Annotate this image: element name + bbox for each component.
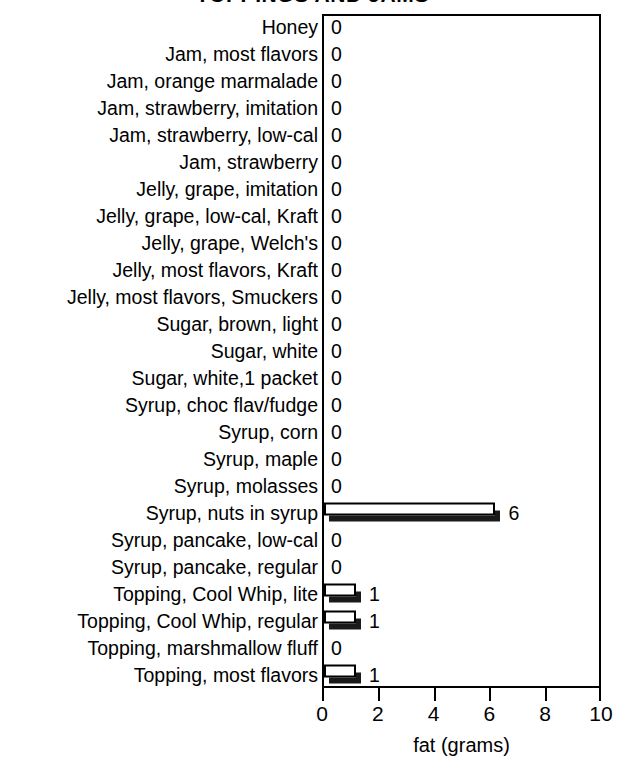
bar-value-label: 6: [508, 503, 519, 523]
bar-value-label: 0: [331, 449, 342, 469]
category-label: Jelly, grape, low-cal, Kraft: [96, 206, 318, 226]
x-axis-tick-label: 8: [539, 702, 551, 726]
bar: [324, 583, 364, 604]
bar-value-label: 0: [331, 341, 342, 361]
bar-value-label: 1: [369, 665, 380, 685]
category-label: Jam, strawberry, low-cal: [109, 125, 318, 145]
bar-row: Syrup, pancake, regular0: [0, 553, 625, 580]
bar-row: Syrup, nuts in syrup6: [0, 499, 625, 526]
bar-row: Jam, strawberry0: [0, 149, 625, 176]
chart-page: TOPPINGS AND JAMS Honey0Jam, most flavor…: [0, 0, 625, 766]
bar-row: Syrup, molasses0: [0, 472, 625, 499]
bar-face: [324, 664, 356, 677]
category-label: Jelly, grape, Welch's: [142, 233, 318, 253]
bar-value-label: 0: [331, 260, 342, 280]
bar-row: Jam, strawberry, imitation0: [0, 95, 625, 122]
category-label: Topping, Cool Whip, lite: [113, 584, 318, 604]
category-label: Jelly, grape, imitation: [136, 179, 318, 199]
x-axis: [322, 688, 601, 702]
x-axis-tick: [489, 688, 491, 701]
bar-row: Topping, marshmallow fluff0: [0, 634, 625, 661]
bar-row: Sugar, white,1 packet0: [0, 364, 625, 391]
bar-value-label: 0: [331, 152, 342, 172]
bar-row: Jelly, grape, imitation0: [0, 176, 625, 203]
bar-row: Jam, orange marmalade0: [0, 68, 625, 95]
category-label: Jelly, most flavors, Kraft: [112, 260, 318, 280]
bar-value-label: 1: [369, 611, 380, 631]
category-label: Syrup, nuts in syrup: [146, 503, 318, 523]
bar-value-label: 0: [331, 206, 342, 226]
x-axis-tick-label: 2: [372, 702, 384, 726]
category-label: Syrup, pancake, regular: [111, 557, 318, 577]
category-label: Syrup, molasses: [174, 476, 318, 496]
category-label: Sugar, white: [211, 341, 318, 361]
bar-value-label: 0: [331, 287, 342, 307]
bar-row: Topping, most flavors1: [0, 661, 625, 688]
x-axis-tick-label: 6: [484, 702, 496, 726]
category-label: Jam, most flavors: [165, 44, 318, 64]
bar-row: Sugar, brown, light0: [0, 311, 625, 338]
x-axis-tick: [434, 688, 436, 701]
category-label: Sugar, brown, light: [156, 314, 318, 334]
chart-title: TOPPINGS AND JAMS: [0, 0, 625, 7]
bar-rows: Honey0Jam, most flavors0Jam, orange marm…: [0, 14, 625, 688]
x-axis-tick-label: 0: [316, 702, 328, 726]
category-label: Jam, orange marmalade: [107, 71, 318, 91]
x-axis-tick: [378, 688, 380, 701]
bar-face: [324, 502, 495, 515]
bar-row: Syrup, pancake, low-cal0: [0, 526, 625, 553]
bar-value-label: 0: [331, 314, 342, 334]
bar-value-label: 0: [331, 422, 342, 442]
x-axis-tick: [322, 688, 324, 701]
category-label: Jam, strawberry: [179, 152, 318, 172]
bar-row: Topping, Cool Whip, lite1: [0, 580, 625, 607]
bar-row: Jelly, grape, low-cal, Kraft0: [0, 203, 625, 230]
bar-value-label: 0: [331, 71, 342, 91]
bar-value-label: 1: [369, 584, 380, 604]
category-label: Topping, Cool Whip, regular: [77, 611, 318, 631]
category-label: Topping, most flavors: [134, 665, 318, 685]
bar-face: [324, 583, 356, 596]
category-label: Jam, strawberry, imitation: [97, 98, 318, 118]
bar-row: Syrup, maple0: [0, 445, 625, 472]
bar: [324, 664, 364, 685]
bar-value-label: 0: [331, 368, 342, 388]
category-label: Syrup, choc flav/fudge: [125, 395, 318, 415]
bar-value-label: 0: [331, 530, 342, 550]
bar-value-label: 0: [331, 98, 342, 118]
bar-value-label: 0: [331, 17, 342, 37]
category-label: Sugar, white,1 packet: [132, 368, 318, 388]
category-label: Topping, marshmallow fluff: [88, 638, 319, 658]
bar-value-label: 0: [331, 125, 342, 145]
x-axis-tick-label: 4: [428, 702, 440, 726]
category-label: Honey: [262, 17, 318, 37]
bar-row: Topping, Cool Whip, regular1: [0, 607, 625, 634]
x-axis-tick-labels: 0246810: [0, 702, 625, 728]
bar: [324, 502, 503, 523]
category-label: Syrup, maple: [203, 449, 318, 469]
bar-row: Jam, strawberry, low-cal0: [0, 122, 625, 149]
category-label: Syrup, corn: [218, 422, 318, 442]
bar-value-label: 0: [331, 476, 342, 496]
bar-value-label: 0: [331, 557, 342, 577]
bar-row: Jelly, most flavors, Kraft0: [0, 257, 625, 284]
bar-row: Sugar, white0: [0, 338, 625, 365]
x-axis-tick: [599, 688, 601, 701]
x-axis-tick-label: 10: [589, 702, 612, 726]
bar-row: Honey0: [0, 14, 625, 41]
bar-row: Jam, most flavors0: [0, 41, 625, 68]
bar-value-label: 0: [331, 233, 342, 253]
x-axis-title: fat (grams): [322, 733, 601, 757]
bar-row: Jelly, most flavors, Smuckers0: [0, 284, 625, 311]
bar-row: Syrup, choc flav/fudge0: [0, 391, 625, 418]
bar-row: Jelly, grape, Welch's0: [0, 230, 625, 257]
bar-value-label: 0: [331, 179, 342, 199]
x-axis-tick: [545, 688, 547, 701]
bar-row: Syrup, corn0: [0, 418, 625, 445]
bar-value-label: 0: [331, 395, 342, 415]
category-label: Syrup, pancake, low-cal: [111, 530, 318, 550]
category-label: Jelly, most flavors, Smuckers: [67, 287, 318, 307]
bar: [324, 610, 364, 631]
bar-face: [324, 610, 356, 623]
bar-value-label: 0: [331, 638, 342, 658]
